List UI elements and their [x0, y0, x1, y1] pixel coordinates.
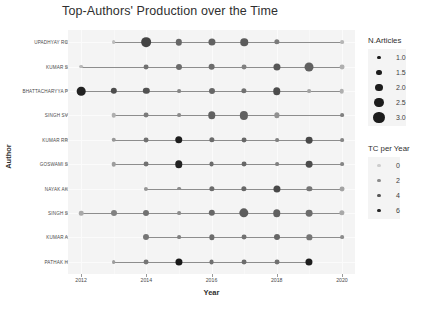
legend-n-articles-item[interactable]: 1.5 — [368, 65, 406, 80]
data-point[interactable] — [209, 162, 214, 167]
legend-tc-per-year-item[interactable]: 4 — [368, 188, 400, 203]
data-point[interactable] — [340, 113, 344, 117]
data-point[interactable] — [79, 211, 84, 216]
data-point[interactable] — [275, 138, 279, 142]
data-point[interactable] — [274, 40, 279, 45]
x-axis-tick-mark — [277, 274, 278, 277]
data-point[interactable] — [176, 39, 182, 45]
legend-tc-per-year-title: TC per Year — [368, 144, 410, 153]
data-point[interactable] — [306, 258, 313, 265]
data-point[interactable] — [242, 162, 247, 167]
data-point[interactable] — [273, 63, 280, 70]
legend-tc-per-year-item[interactable]: 2 — [368, 173, 400, 188]
data-point[interactable] — [239, 208, 248, 217]
data-point[interactable] — [79, 65, 83, 69]
data-point[interactable] — [208, 210, 214, 216]
data-point[interactable] — [144, 259, 149, 264]
legend-n-articles: N.Articles 1.01.52.02.53.0 — [368, 36, 406, 127]
data-point[interactable] — [112, 260, 116, 264]
data-point[interactable] — [339, 210, 344, 215]
legend-tc-per-year-swatch — [368, 188, 390, 203]
data-point[interactable] — [240, 111, 248, 119]
data-point[interactable] — [208, 112, 216, 120]
legend-n-articles-swatch — [368, 95, 390, 110]
legend-tc-per-year-swatch — [368, 173, 390, 188]
data-point[interactable] — [340, 138, 344, 142]
data-point[interactable] — [77, 87, 86, 96]
data-point[interactable] — [242, 137, 247, 142]
data-point[interactable] — [340, 162, 344, 166]
data-point[interactable] — [340, 186, 345, 191]
data-point[interactable] — [274, 113, 279, 118]
legend-n-articles-item[interactable]: 1.0 — [368, 50, 406, 65]
x-axis-title: Year — [68, 288, 355, 297]
data-point[interactable] — [273, 185, 280, 192]
data-point[interactable] — [242, 259, 247, 264]
data-point[interactable] — [307, 186, 312, 191]
data-point[interactable] — [111, 113, 116, 118]
y-axis-tick-mark — [65, 188, 68, 189]
data-point[interactable] — [112, 40, 116, 44]
data-point[interactable] — [143, 234, 149, 240]
legend-tc-per-year-dot — [377, 164, 380, 167]
legend-n-articles-item[interactable]: 3.0 — [368, 110, 406, 125]
data-point[interactable] — [275, 162, 279, 166]
data-point[interactable] — [111, 210, 117, 216]
data-point[interactable] — [306, 136, 313, 143]
data-point[interactable] — [274, 259, 279, 264]
data-point[interactable] — [177, 187, 181, 191]
data-point[interactable] — [209, 186, 214, 191]
data-point[interactable] — [143, 88, 149, 94]
data-point[interactable] — [176, 64, 182, 70]
data-point[interactable] — [177, 211, 181, 215]
data-point[interactable] — [175, 160, 183, 168]
data-point[interactable] — [241, 88, 246, 93]
data-point[interactable] — [144, 162, 149, 167]
data-point[interactable] — [144, 64, 149, 69]
data-point[interactable] — [307, 89, 311, 93]
legend-tc-per-year-keys: 0246 — [368, 157, 400, 219]
data-point[interactable] — [143, 210, 149, 216]
data-point[interactable] — [175, 136, 183, 144]
data-point[interactable] — [208, 39, 215, 46]
y-axis-tick-label: BHATTACHARYYA P — [22, 89, 68, 94]
data-point[interactable] — [242, 235, 247, 240]
data-point[interactable] — [340, 235, 344, 239]
data-point[interactable] — [208, 63, 215, 70]
data-point[interactable] — [209, 235, 214, 240]
data-point[interactable] — [144, 187, 148, 191]
data-point[interactable] — [274, 234, 280, 240]
data-point[interactable] — [208, 88, 214, 94]
x-axis-tick-mark — [146, 274, 147, 277]
data-point[interactable] — [305, 62, 314, 71]
legend-n-articles-item[interactable]: 2.5 — [368, 95, 406, 110]
data-point[interactable] — [240, 38, 248, 46]
legend-n-articles-item[interactable]: 2.0 — [368, 80, 406, 95]
data-point[interactable] — [111, 138, 116, 143]
data-point[interactable] — [241, 186, 246, 191]
data-point[interactable] — [141, 37, 151, 47]
data-point[interactable] — [306, 210, 313, 217]
data-point[interactable] — [273, 209, 281, 217]
data-point[interactable] — [209, 259, 214, 264]
data-point[interactable] — [177, 89, 181, 93]
data-point[interactable] — [111, 162, 116, 167]
legend-n-articles-swatch — [368, 50, 390, 65]
data-point[interactable] — [340, 64, 345, 69]
data-point[interactable] — [209, 137, 214, 142]
x-axis-tick-label: 2016 — [206, 277, 218, 283]
legend-tc-per-year-item[interactable]: 0 — [368, 158, 400, 173]
data-point[interactable] — [144, 113, 149, 118]
data-point[interactable] — [110, 88, 116, 94]
data-point[interactable] — [177, 235, 181, 239]
legend-tc-per-year-item[interactable]: 6 — [368, 203, 400, 218]
data-point[interactable] — [307, 235, 312, 240]
data-point[interactable] — [273, 87, 281, 95]
data-point[interactable] — [306, 161, 313, 168]
data-point[interactable] — [340, 40, 344, 44]
data-point[interactable] — [177, 113, 181, 117]
data-point[interactable] — [340, 89, 345, 94]
data-point[interactable] — [242, 64, 247, 69]
data-point[interactable] — [144, 137, 149, 142]
data-point[interactable] — [175, 258, 182, 265]
